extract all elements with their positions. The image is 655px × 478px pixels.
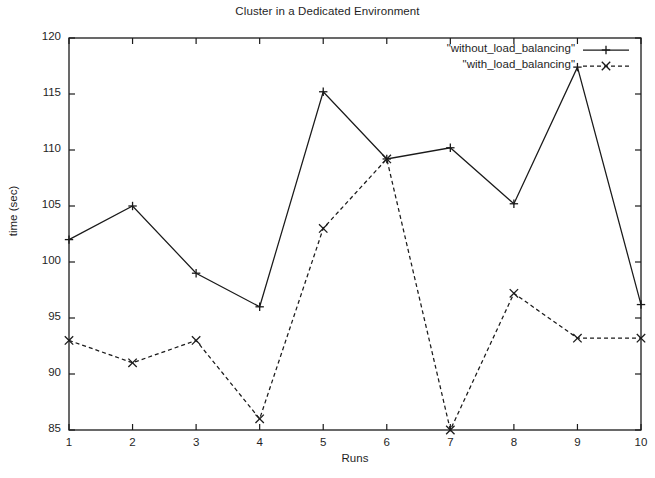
axis-tick-marks — [69, 38, 641, 430]
plot-area — [0, 0, 655, 478]
data-series-2 — [65, 155, 645, 434]
chart-figure: Cluster in a Dedicated Environment time … — [0, 0, 655, 478]
legend-key-samples — [583, 46, 629, 70]
axis-frame — [69, 38, 641, 430]
data-series-1 — [65, 63, 645, 311]
data-series-layer — [65, 63, 645, 434]
